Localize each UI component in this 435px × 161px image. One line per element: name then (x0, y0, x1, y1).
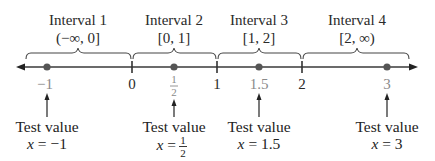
left-arrow-icon (16, 64, 25, 71)
interval-1-title: Interval 1 (49, 12, 107, 28)
test-value-equation-1: x = −1 (26, 135, 67, 152)
test-point-dot-3 (255, 63, 262, 70)
test-point-label-4: 3 (383, 76, 391, 92)
svg-text:2: 2 (171, 86, 177, 98)
svg-text:2: 2 (180, 147, 186, 159)
up-arrow-icon (172, 99, 177, 117)
svg-text:1: 1 (171, 73, 177, 85)
test-point-label-1: −1 (37, 76, 53, 92)
test-point-label-2: 1 2 (170, 73, 178, 98)
interval-1-brace (26, 48, 131, 59)
test-value-caption-2: Test value (142, 118, 205, 135)
up-arrow-icon (385, 93, 390, 117)
interval-3-brace (218, 48, 301, 59)
test-value-caption-3: Test value (227, 118, 290, 135)
test-point-label-3: 1.5 (250, 76, 269, 92)
tick-label-0: 0 (128, 76, 136, 92)
interval-2-notation: [0, 1] (158, 30, 191, 46)
up-arrow-icon (45, 93, 50, 117)
tick-label-2: 2 (298, 76, 306, 92)
interval-2-title: Interval 2 (145, 12, 203, 28)
test-point-dot-4 (383, 63, 390, 70)
svg-text:x =: x = (155, 136, 176, 153)
test-value-equation-4: x = 3 (370, 135, 402, 152)
tick-label-1: 1 (213, 76, 221, 92)
interval-4-title: Interval 4 (328, 12, 386, 28)
test-value-caption-1: Test value (15, 118, 78, 135)
test-point-dot-2 (170, 63, 177, 70)
interval-3-notation: [1, 2] (243, 30, 276, 46)
test-value-caption-4: Test value (355, 118, 418, 135)
svg-text:1: 1 (180, 134, 186, 146)
right-arrow-icon (409, 64, 418, 71)
interval-4-notation: [2, ∞) (339, 30, 375, 47)
interval-1-notation: (−∞, 0] (56, 30, 100, 47)
interval-2-brace (133, 48, 216, 59)
interval-4-brace (303, 48, 409, 59)
test-point-dot-1 (43, 63, 50, 70)
interval-3-title: Interval 3 (230, 12, 288, 28)
test-value-equation-3: x = 1.5 (237, 135, 281, 152)
test-value-equation-2: x = 1 2 (155, 134, 187, 159)
number-line-diagram: Interval 1 (−∞, 0] Interval 2 [0, 1] Int… (0, 0, 435, 161)
up-arrow-icon (257, 93, 262, 117)
